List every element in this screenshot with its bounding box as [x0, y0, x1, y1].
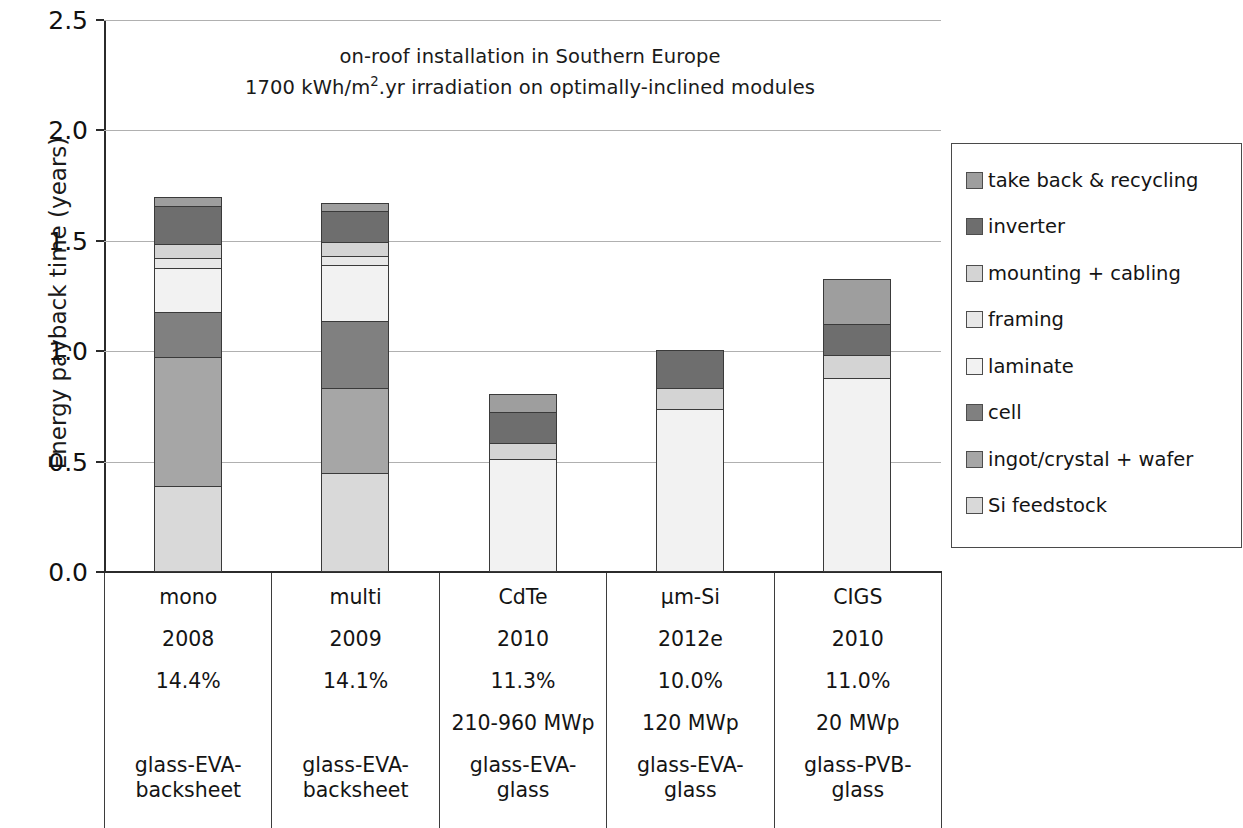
legend-item[interactable]: ingot/crystal + wafer	[966, 436, 1241, 483]
category-technology: multi	[329, 585, 381, 627]
legend-swatch-icon	[966, 311, 983, 328]
legend-label: laminate	[988, 355, 1074, 378]
bar-segment[interactable]	[321, 321, 389, 389]
chart-container: Energy payback time (years) on-roof inst…	[0, 0, 1243, 828]
category-year: 2009	[330, 627, 382, 669]
category-efficiency: 11.0%	[825, 669, 890, 711]
legend-item[interactable]: cell	[966, 390, 1241, 437]
gridline	[104, 20, 941, 21]
y-tick-label: 2.0	[48, 116, 88, 145]
legend-label: mounting + cabling	[988, 262, 1181, 285]
category-column: mono200814.4%glass-EVA-backsheet	[104, 573, 271, 828]
y-tick-label: 0.5	[48, 447, 88, 476]
bar-segment[interactable]	[489, 459, 557, 572]
legend-item[interactable]: mounting + cabling	[966, 250, 1241, 297]
category-encapsulation: glass-EVA-glass	[448, 753, 598, 802]
legend-item[interactable]: framing	[966, 297, 1241, 344]
y-tick-mark	[96, 129, 104, 131]
category-technology: CdTe	[499, 585, 548, 627]
y-axis-title: Energy payback time (years)	[45, 33, 71, 573]
category-encapsulation: glass-EVA-glass	[615, 753, 765, 802]
y-tick-label: 1.0	[48, 337, 88, 366]
y-tick-mark	[96, 19, 104, 21]
category-efficiency: 10.0%	[658, 669, 723, 711]
y-tick-mark	[96, 461, 104, 463]
category-technology: CIGS	[833, 585, 882, 627]
bar-segment[interactable]	[154, 206, 222, 246]
category-technology: mono	[159, 585, 217, 627]
legend-item[interactable]: inverter	[966, 204, 1241, 251]
category-efficiency: 14.1%	[323, 669, 388, 711]
category-column: CdTe201011.3%210-960 MWpglass-EVA-glass	[439, 573, 606, 828]
y-tick-label: 0.0	[48, 558, 88, 587]
bar-segment[interactable]	[656, 388, 724, 410]
bar-segment[interactable]	[154, 357, 222, 487]
category-capacity: 120 MWp	[642, 711, 739, 753]
category-year: 2010	[832, 627, 884, 669]
category-efficiency: 14.4%	[156, 669, 221, 711]
bar-segment[interactable]	[823, 279, 891, 325]
bar-segment[interactable]	[656, 350, 724, 390]
legend-swatch-icon	[966, 451, 983, 468]
category-column: μm-Si2012e10.0%120 MWpglass-EVA-glass	[606, 573, 773, 828]
bar-segment[interactable]	[489, 443, 557, 461]
bar-segment[interactable]	[154, 486, 222, 572]
bar-multi[interactable]	[321, 203, 389, 572]
category-technology: μm-Si	[661, 585, 720, 627]
y-axis-line	[104, 20, 106, 572]
bar-segment[interactable]	[321, 388, 389, 474]
category-year: 2012e	[658, 627, 723, 669]
bar-segment[interactable]	[823, 378, 891, 572]
category-year: 2008	[162, 627, 214, 669]
bar-cdte[interactable]	[489, 394, 557, 572]
legend-label: Si feedstock	[988, 494, 1107, 517]
bar-segment[interactable]	[154, 312, 222, 358]
category-capacity: 20 MWp	[816, 711, 900, 753]
legend-swatch-icon	[966, 172, 983, 189]
y-tick-mark	[96, 350, 104, 352]
category-column: multi200914.1%glass-EVA-backsheet	[271, 573, 438, 828]
bar-segment[interactable]	[489, 394, 557, 414]
legend-label: framing	[988, 308, 1064, 331]
bar-cigs[interactable]	[823, 279, 891, 572]
bar-segment[interactable]	[656, 409, 724, 572]
category-column: CIGS201011.0%20 MWpglass-PVB-glass	[774, 573, 942, 828]
legend-swatch-icon	[966, 265, 983, 282]
bar-segment[interactable]	[321, 473, 389, 572]
bar-segment[interactable]	[321, 265, 389, 322]
category-encapsulation: glass-EVA-backsheet	[113, 753, 263, 802]
legend-item[interactable]: laminate	[966, 343, 1241, 390]
bar-segment[interactable]	[823, 355, 891, 379]
legend-label: inverter	[988, 215, 1065, 238]
legend-label: ingot/crystal + wafer	[988, 448, 1193, 471]
legend-swatch-icon	[966, 218, 983, 235]
category-encapsulation: glass-EVA-backsheet	[281, 753, 431, 802]
legend-swatch-icon	[966, 404, 983, 421]
bar-segment[interactable]	[154, 268, 222, 314]
plot-area: 2.52.01.51.00.50.0	[104, 20, 941, 572]
legend-item[interactable]: Si feedstock	[966, 483, 1241, 530]
y-tick-mark	[96, 240, 104, 242]
gridline	[104, 351, 941, 352]
y-tick-mark	[96, 571, 104, 573]
bar-segment[interactable]	[321, 211, 389, 244]
y-tick-label: 2.5	[48, 6, 88, 35]
legend-swatch-icon	[966, 358, 983, 375]
category-encapsulation: glass-PVB-glass	[783, 753, 933, 802]
bar-segment[interactable]	[823, 324, 891, 357]
bar--m-si[interactable]	[656, 350, 724, 572]
legend-item[interactable]: take back & recycling	[966, 157, 1241, 204]
legend-label: cell	[988, 401, 1022, 424]
legend: take back & recyclinginvertermounting + …	[951, 143, 1242, 548]
category-year: 2010	[497, 627, 549, 669]
gridline	[104, 130, 941, 131]
category-capacity: 210-960 MWp	[451, 711, 594, 753]
legend-swatch-icon	[966, 497, 983, 514]
category-efficiency: 11.3%	[490, 669, 555, 711]
legend-label: take back & recycling	[988, 169, 1198, 192]
category-table: mono200814.4%glass-EVA-backsheetmulti200…	[104, 573, 942, 828]
bar-segment[interactable]	[489, 412, 557, 445]
y-tick-label: 1.5	[48, 226, 88, 255]
gridline	[104, 241, 941, 242]
bar-mono[interactable]	[154, 197, 222, 572]
